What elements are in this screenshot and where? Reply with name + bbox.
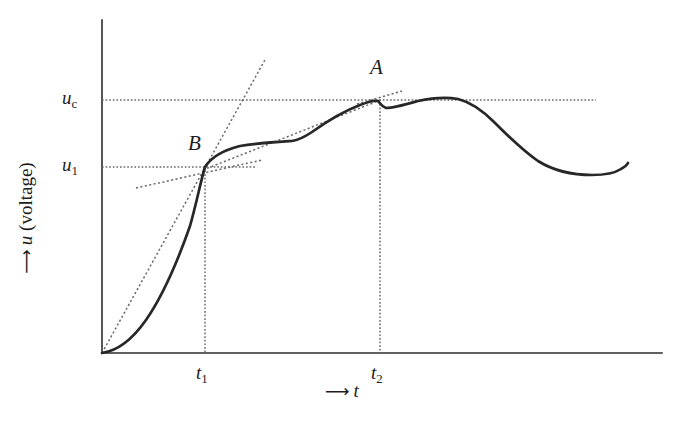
x-tick-t1-sub: 1	[201, 371, 207, 386]
figure-container: ⟶ u (voltage) ⟶ t uc u1 t1 t2 A B	[0, 0, 678, 425]
y-tick-u1-base: u	[62, 154, 72, 175]
y-axis-arrow-icon: ⟶	[16, 250, 36, 274]
y-tick-uc-sub: c	[72, 96, 78, 111]
y-axis-label: ⟶ u (voltage)	[6, 118, 46, 318]
initial-slope-tangent	[102, 58, 266, 353]
voltage-curve	[102, 98, 628, 353]
x-axis-arrow-icon: ⟶	[325, 381, 349, 401]
y-tick-u1-sub: 1	[72, 163, 78, 178]
x-tick-t2-sub: 2	[376, 371, 382, 386]
y-axis-variable: u	[15, 236, 36, 246]
tangent-at-b	[136, 160, 262, 188]
chord-b-to-a	[203, 99, 383, 170]
y-tick-label-uc: uc	[62, 88, 77, 111]
y-axis-unit: (voltage)	[15, 162, 36, 231]
point-label-a: A	[370, 57, 383, 78]
y-tick-label-u1: u1	[62, 155, 78, 178]
x-tick-label-t2: t2	[371, 363, 383, 386]
plot-canvas	[0, 0, 678, 425]
y-tick-uc-base: u	[62, 87, 72, 108]
x-tick-label-t1: t1	[196, 363, 208, 386]
x-axis-variable: t	[353, 380, 358, 401]
x-axis-label: ⟶ t	[325, 381, 359, 400]
point-label-b: B	[188, 133, 201, 154]
